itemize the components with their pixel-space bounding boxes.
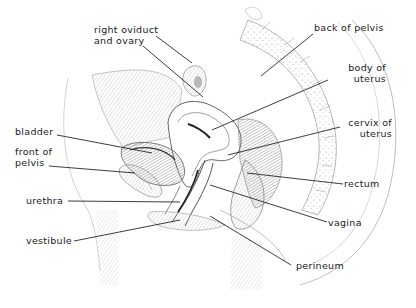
label-vagina: vagina bbox=[328, 217, 362, 228]
label-front-of-pelvis: front of pelvis bbox=[15, 146, 52, 168]
label-line: urethra bbox=[26, 195, 63, 206]
label-line: right oviduct bbox=[94, 24, 158, 35]
leader-right-oviduct bbox=[156, 36, 192, 63]
label-back-of-pelvis: back of pelvis bbox=[314, 22, 384, 33]
perineum bbox=[96, 210, 285, 290]
label-cervix-of-uterus: cervix of uterus bbox=[340, 117, 392, 139]
leader-vestibule bbox=[74, 220, 180, 241]
label-line: vestibule bbox=[26, 235, 72, 246]
label-line: and ovary bbox=[94, 35, 158, 46]
label-body-of-uterus: body of uterus bbox=[330, 62, 386, 84]
label-line: body of bbox=[330, 62, 386, 73]
label-bladder: bladder bbox=[15, 126, 53, 137]
label-urethra: urethra bbox=[26, 195, 63, 206]
uterus bbox=[168, 101, 282, 208]
label-line: uterus bbox=[340, 128, 392, 139]
label-vestibule: vestibule bbox=[26, 235, 72, 246]
label-line: perineum bbox=[296, 260, 344, 271]
label-line: vagina bbox=[328, 217, 362, 228]
label-right-oviduct-and-ovary: right oviduct and ovary bbox=[94, 24, 158, 46]
anatomy-diagram: right oviduct and ovary back of pelvis b… bbox=[0, 0, 416, 308]
ovary bbox=[183, 66, 206, 96]
label-line: bladder bbox=[15, 126, 53, 137]
label-line: back of pelvis bbox=[314, 22, 384, 33]
label-line: cervix of bbox=[340, 117, 392, 128]
label-line: rectum bbox=[344, 178, 380, 189]
label-line: uterus bbox=[330, 73, 386, 84]
leader-urethra bbox=[68, 201, 180, 202]
pelvis-illustration bbox=[0, 0, 416, 308]
label-line: front of bbox=[15, 146, 52, 157]
label-rectum: rectum bbox=[344, 178, 380, 189]
label-perineum: perineum bbox=[296, 260, 344, 271]
label-line: pelvis bbox=[15, 157, 52, 168]
